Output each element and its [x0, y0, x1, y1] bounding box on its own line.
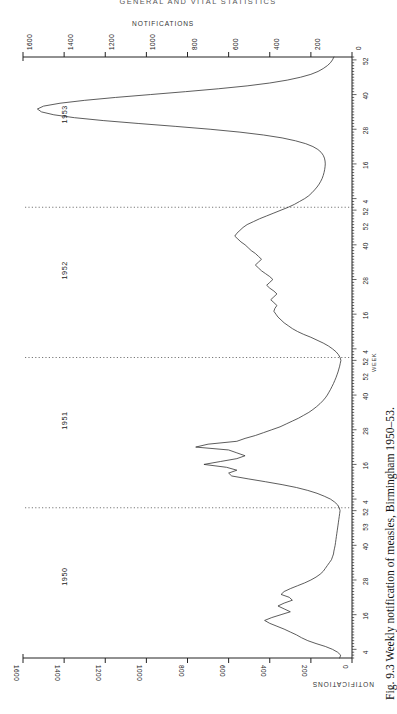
notification-tick-label-bottom-800: 800	[178, 665, 185, 677]
year-label-1950: 1950	[60, 567, 69, 585]
notifications-axis-title-bottom: NOTIFICATIONS	[312, 681, 374, 688]
notification-tick-label-top-1200: 1200	[108, 34, 115, 50]
notification-tick-label-bottom-1200: 1200	[95, 665, 102, 681]
notification-tick-label-top-1400: 1400	[67, 34, 74, 50]
notification-tick-label-bottom-1400: 1400	[54, 665, 61, 681]
notification-tick-label-bottom-600: 600	[219, 665, 226, 677]
year-boundary-guides	[25, 207, 352, 508]
week-year-marker-52-2: 52	[362, 223, 369, 230]
notification-tick-label-top-400: 400	[273, 38, 280, 50]
week-tick-label-80: 28	[362, 427, 369, 434]
notification-tick-label-top-1000: 1000	[149, 34, 156, 50]
week-tick-label-120: 16	[362, 312, 369, 319]
week-tick-label-68: 16	[362, 462, 369, 469]
week-tick-label-184: 28	[362, 127, 369, 134]
week-tick-label-144: 40	[362, 242, 369, 249]
notification-tick-label-top-600: 600	[232, 38, 239, 50]
notification-tick-label-bottom-1600: 1600	[13, 665, 20, 681]
notification-tick-label-top-1600: 1600	[26, 34, 33, 50]
figure-caption: Fig. 9.3 Weekly notification of measles,…	[384, 407, 397, 700]
week-tick-marks	[352, 57, 357, 658]
week-tick-label-92: 40	[362, 393, 369, 400]
notifications-axis-title-top: NOTIFICATIONS	[132, 20, 194, 27]
week-tick-label-160: 4	[362, 200, 369, 204]
week-tick-label-108: 4	[362, 350, 369, 354]
year-label-1953: 1953	[60, 105, 69, 123]
notification-tick-label-top-800: 800	[191, 38, 198, 50]
week-axis-title: WEEK	[371, 353, 377, 372]
year-label-1951: 1951	[60, 411, 69, 429]
week-tick-label-156: 52	[362, 208, 369, 215]
week-tick-label-16: 16	[362, 612, 369, 619]
week-tick-label-4: 4	[362, 651, 369, 655]
notification-tick-label-bottom-400: 400	[260, 665, 267, 677]
week-tick-label-40: 40	[362, 543, 369, 550]
week-tick-label-132: 28	[362, 277, 369, 284]
notification-tick-label-bottom-200: 200	[301, 665, 308, 677]
notification-tick-label-top-0: 0	[355, 46, 362, 50]
week-tick-label-28: 28	[362, 578, 369, 585]
week-year-marker-52-1: 52	[362, 373, 369, 380]
year-label-1952: 1952	[60, 261, 69, 279]
week-tick-label-52: 52	[362, 508, 369, 515]
notification-tick-label-bottom-0: 0	[342, 665, 349, 669]
week-tick-label-56: 4	[362, 500, 369, 504]
notification-tick-label-bottom-1000: 1000	[136, 665, 143, 681]
week-tick-label-104: 52	[362, 358, 369, 365]
week-tick-label-208: 52	[362, 58, 369, 65]
week-tick-label-172: 16	[362, 162, 369, 169]
notification-tick-marks	[23, 52, 352, 663]
notification-tick-label-top-200: 200	[314, 38, 321, 50]
week-year-marker-53-0: 53	[362, 524, 369, 531]
week-tick-label-196: 40	[362, 92, 369, 99]
